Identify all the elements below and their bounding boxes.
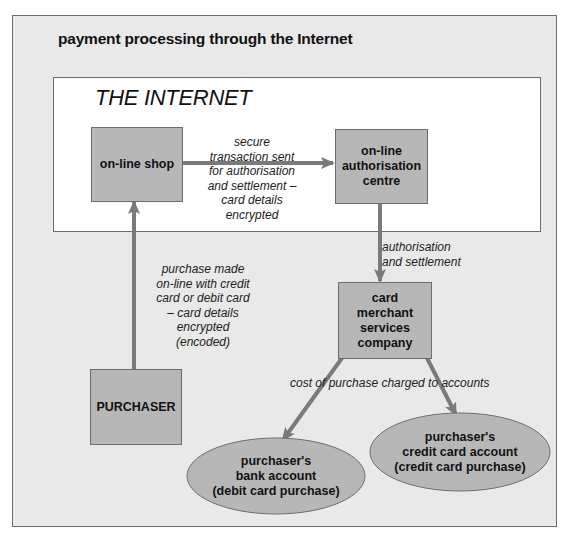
node-bank-account-label: purchaser's bank account (debit card pur… [187, 454, 365, 499]
node-card-merchant: card merchant services company [338, 282, 432, 359]
node-purchaser-label: PURCHASER [96, 400, 175, 415]
caption-shop-to-auth: secure transaction sent for authorisatio… [187, 135, 317, 222]
arrow-merchant-to-bank [283, 358, 342, 440]
caption-auth-to-merchant: authorisation and settlement [382, 240, 502, 269]
node-purchaser: PURCHASER [90, 369, 182, 445]
node-auth-centre: on-line authorisation centre [335, 129, 428, 204]
caption-purchaser-to-shop: purchase made on-line with credit card o… [138, 262, 268, 349]
node-auth-centre-label: on-line authorisation centre [342, 144, 421, 189]
node-card-merchant-label: card merchant services company [357, 291, 413, 351]
node-online-shop: on-line shop [91, 127, 183, 202]
node-online-shop-label: on-line shop [100, 157, 174, 172]
caption-merchant-to-accounts: cost of purchase charged to accounts [290, 376, 510, 391]
node-credit-account-label: purchaser's credit card account (credit … [370, 430, 550, 475]
